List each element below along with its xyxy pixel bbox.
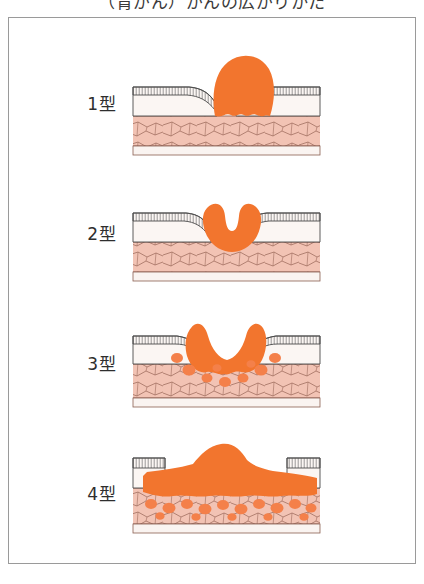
row-label-type-2: 2型 <box>47 220 117 245</box>
diagram-row-type-3: 3型 <box>9 298 415 423</box>
diagram-row-type-4: 4型 <box>9 428 415 553</box>
row-label-type-4: 4型 <box>47 480 117 505</box>
figure-caption: （胃がん）がんの広がりかた <box>0 0 424 13</box>
figure-frame: 1型 <box>8 17 416 564</box>
diagram-row-type-2: 2型 <box>9 168 415 293</box>
tissue-cross-section-type-2 <box>129 168 324 293</box>
row-label-type-3: 3型 <box>47 350 117 375</box>
row-label-type-1: 1型 <box>47 90 117 115</box>
tissue-cross-section-type-3 <box>129 298 324 423</box>
tissue-cross-section-type-4 <box>129 428 324 553</box>
diagram-row-type-1: 1型 <box>9 38 415 163</box>
tissue-cross-section-type-1 <box>129 38 324 163</box>
